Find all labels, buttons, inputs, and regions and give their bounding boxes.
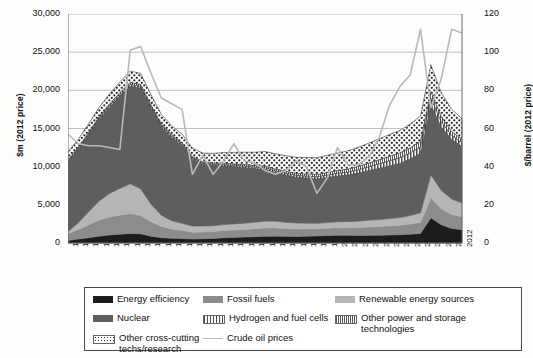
legend-item: Crude oil prices	[203, 332, 293, 343]
legend-item-label: Energy efficiency	[117, 293, 189, 304]
plot-area	[68, 14, 462, 243]
legend-swatch-icon	[93, 296, 113, 303]
legend-item-label: Crude oil prices	[227, 332, 293, 343]
y-tick-left: 15,000	[14, 124, 60, 133]
y-tick-left: 0	[14, 238, 60, 247]
legend-item-label: Renewable energy sources	[359, 293, 474, 304]
x-tick: 2012	[466, 230, 474, 247]
y-axis-label-right: $/barrel (2012 price)	[523, 65, 533, 185]
legend-item: Renewable energy sources	[335, 293, 474, 304]
chart-legend: Energy efficiencyFossil fuelsRenewable e…	[84, 287, 522, 351]
legend-swatch-icon	[203, 315, 225, 324]
y-tick-right: 20	[484, 200, 524, 209]
y-tick-left: 30,000	[14, 9, 60, 18]
legend-swatch-icon	[93, 335, 115, 344]
legend-item: Fossil fuels	[203, 293, 275, 304]
y-tick-right: 120	[484, 9, 524, 18]
legend-swatch-line-icon	[203, 335, 223, 342]
y-tick-right: 60	[484, 124, 524, 133]
y-tick-left: 20,000	[14, 85, 60, 94]
y-tick-left: 5,000	[14, 200, 60, 209]
y-tick-right: 80	[484, 85, 524, 94]
legend-swatch-icon	[203, 296, 223, 303]
legend-swatch-icon	[335, 315, 357, 324]
y-tick-right: 100	[484, 47, 524, 56]
legend-item: Hydrogen and fuel cells	[203, 312, 328, 324]
legend-item-label: Other power and storage technologies	[361, 312, 515, 334]
y-tick-right: 0	[484, 238, 524, 247]
legend-item: Energy efficiency	[93, 293, 189, 304]
legend-swatch-icon	[93, 315, 113, 322]
legend-item-label: Fossil fuels	[227, 293, 275, 304]
legend-item: Other power and storage technologies	[335, 312, 515, 334]
legend-swatch-icon	[335, 296, 355, 303]
legend-item-label: Hydrogen and fuel cells	[229, 312, 328, 323]
y-tick-left: 25,000	[14, 47, 60, 56]
legend-item: Nuclear	[93, 312, 150, 323]
y-tick-left: 10,000	[14, 162, 60, 171]
legend-item-label: Nuclear	[117, 312, 150, 323]
y-tick-right: 40	[484, 162, 524, 171]
